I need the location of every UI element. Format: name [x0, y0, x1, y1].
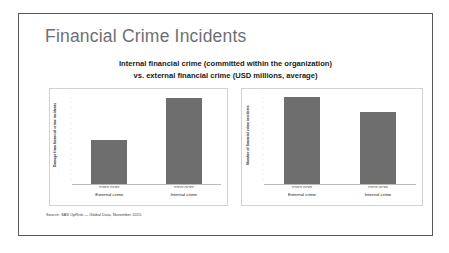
bar-internal-damage — [166, 98, 202, 184]
incidents-chart-plot-area — [264, 92, 416, 185]
x-category-external: פשיעה חיצונית External crime — [80, 185, 138, 205]
x-category-external-he: פשיעה חיצונית — [80, 185, 138, 191]
x-category-external-he: פשיעה חיצונית — [273, 185, 331, 191]
x-category-internal-en: Internal crime — [349, 192, 407, 198]
damage-chart: Damage from financial crime incidents --… — [49, 88, 228, 206]
presentation-slide: Financial Crime Incidents Internal finan… — [18, 13, 433, 236]
damage-chart-x-axis: פשיעה חיצונית External crime פשיעה פנימי… — [72, 185, 221, 205]
x-category-external: פשיעה חיצונית External crime — [273, 185, 331, 205]
bar-external-damage — [91, 140, 127, 184]
page-title: Financial Crime Incidents — [45, 26, 246, 47]
x-category-internal: פשיעה פנימית Internal crime — [155, 185, 213, 205]
x-category-internal-he: פשיעה פנימית — [155, 185, 213, 191]
damage-chart-plot-area — [72, 92, 221, 185]
incidents-chart-x-axis: פשיעה חיצונית External crime פשיעה פנימי… — [264, 185, 416, 205]
x-category-external-en: External crime — [80, 192, 138, 198]
incidents-chart: Number of financial crime incidents -- -… — [241, 88, 423, 206]
bar-external-incidents — [284, 97, 320, 184]
x-category-external-en: External crime — [273, 192, 331, 198]
subtitle-line-1: Internal financial crime (committed with… — [19, 58, 432, 70]
incidents-chart-y-ticks: -- -- -- -- -- -- -- -- -- — [251, 92, 263, 182]
source-note: Source: SAS OpRisk — Global Data, Novemb… — [46, 212, 142, 217]
bar-internal-incidents — [360, 112, 396, 184]
damage-chart-y-ticks: -- -- -- -- -- -- -- -- -- — [59, 92, 71, 182]
x-category-internal-he: פשיעה פנימית — [349, 185, 407, 191]
x-category-internal-en: Internal crime — [155, 192, 213, 198]
x-category-internal: פשיעה פנימית Internal crime — [349, 185, 407, 205]
subtitle-line-2: vs. external financial crime (USD millio… — [19, 70, 432, 82]
chart-subtitle: Internal financial crime (committed with… — [19, 58, 432, 81]
